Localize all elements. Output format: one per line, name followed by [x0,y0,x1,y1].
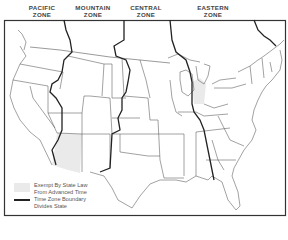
legend-boundary-line2: Divides State [34,203,86,210]
canada-border [30,47,170,63]
boundary-line-swatch [14,199,30,201]
exempt-swatch [14,183,30,192]
eastern-north-boundary [254,20,276,46]
legend-exempt-line1: Exempt By State Law [34,182,87,189]
arizona-exempt-region [52,133,82,173]
legend-exempt: Exempt By State Law From Advanced Time [34,182,87,195]
legend-exempt-line2: From Advanced Time [34,189,87,196]
indiana-exempt-region [192,78,206,104]
legend-boundary: Time Zone Boundary Divides State [34,196,86,209]
time-zone-boundaries [50,20,276,180]
legend-boundary-line1: Time Zone Boundary [34,196,86,203]
central-eastern-boundary [170,20,214,180]
